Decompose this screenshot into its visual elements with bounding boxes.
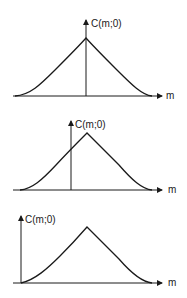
x-axis-label: m bbox=[168, 277, 176, 288]
panel-3: m C(m;0) bbox=[13, 214, 176, 288]
peak-curve bbox=[21, 227, 152, 283]
y-axis-label: C(m;0) bbox=[91, 18, 122, 29]
peak-curve bbox=[20, 133, 152, 190]
panel-1: m C(m;0) bbox=[13, 18, 174, 101]
y-axis-label: C(m;0) bbox=[75, 119, 106, 130]
x-axis-label: m bbox=[168, 184, 176, 195]
peak-curve bbox=[15, 38, 152, 96]
figure-canvas: m C(m;0) m C(m;0) m C(m;0) bbox=[0, 0, 187, 298]
x-axis-label: m bbox=[166, 90, 174, 101]
caption-cutoff bbox=[2, 292, 185, 298]
panel-2: m C(m;0) bbox=[13, 119, 176, 195]
y-axis-label: C(m;0) bbox=[25, 214, 56, 225]
